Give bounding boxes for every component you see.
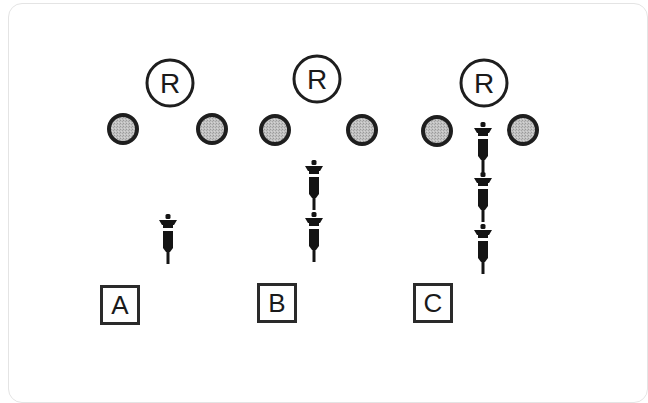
reference-marker: R xyxy=(294,56,340,102)
syringe-flange xyxy=(159,220,177,225)
syringe-flange xyxy=(305,218,323,223)
neutral-circle xyxy=(348,116,376,144)
neutral-circle xyxy=(109,115,137,143)
neutral-circle xyxy=(261,116,289,144)
panel-b: R xyxy=(261,56,376,262)
syringe-icon xyxy=(474,122,492,172)
syringe-icon xyxy=(305,160,323,210)
syringe-needle xyxy=(313,198,316,210)
syringe-icon xyxy=(305,212,323,262)
syringe-needle xyxy=(167,252,170,264)
syringe-tip xyxy=(312,212,317,217)
reference-marker: R xyxy=(147,60,193,106)
syringe-barrel xyxy=(309,177,319,198)
syringe-barrel xyxy=(478,139,488,160)
syringe-barrel-top xyxy=(478,235,488,238)
syringe-flange xyxy=(474,178,492,183)
syringe-tip xyxy=(481,224,486,229)
reference-label: R xyxy=(307,64,327,95)
syringe-needle xyxy=(482,210,485,222)
syringe-tip xyxy=(481,122,486,127)
syringe-band xyxy=(309,174,319,177)
syringe-tip xyxy=(312,160,317,165)
syringe-band xyxy=(478,186,488,189)
syringe-band xyxy=(163,228,173,231)
syringe-barrel-top xyxy=(478,133,488,136)
syringe-flange xyxy=(474,128,492,133)
syringe-band xyxy=(478,136,488,139)
syringe-tip xyxy=(481,172,486,177)
panel-a: R xyxy=(109,60,226,264)
reference-marker: R xyxy=(461,60,507,106)
syringe-flange xyxy=(474,230,492,235)
syringe-needle xyxy=(313,250,316,262)
panel-label-c: C xyxy=(413,283,453,323)
syringe-icon xyxy=(474,172,492,222)
neutral-circle xyxy=(509,116,537,144)
syringe-barrel xyxy=(478,189,488,210)
syringe-icon xyxy=(474,224,492,274)
syringe-band xyxy=(478,238,488,241)
neutral-circle xyxy=(423,117,451,145)
syringe-barrel xyxy=(309,229,319,250)
syringe-barrel-top xyxy=(309,223,319,226)
syringe-barrel-top xyxy=(478,183,488,186)
panel-label-a: A xyxy=(100,285,140,325)
syringe-barrel xyxy=(163,231,173,252)
reference-label: R xyxy=(160,68,180,99)
syringe-flange xyxy=(305,166,323,171)
syringe-barrel-top xyxy=(309,171,319,174)
syringe-barrel xyxy=(478,241,488,262)
panel-c: R xyxy=(423,60,537,274)
neutral-circle xyxy=(198,115,226,143)
syringe-icon xyxy=(159,214,177,264)
reference-label: R xyxy=(474,68,494,99)
panels-layer: RRR xyxy=(109,56,537,274)
syringe-barrel-top xyxy=(163,225,173,228)
syringe-needle xyxy=(482,160,485,172)
panel-label-b: B xyxy=(257,283,297,323)
syringe-band xyxy=(309,226,319,229)
syringe-tip xyxy=(166,214,171,219)
syringe-needle xyxy=(482,262,485,274)
